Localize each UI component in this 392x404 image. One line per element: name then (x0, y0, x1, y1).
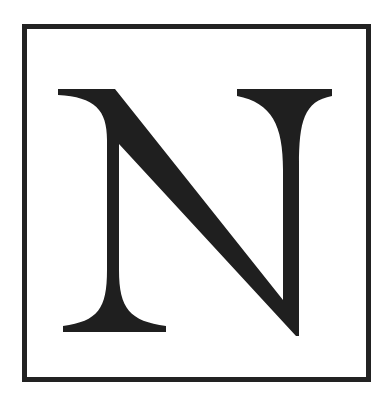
letter-tile: N (0, 0, 392, 404)
letter-n-glyph (58, 89, 332, 336)
letter-n-figure (0, 0, 392, 404)
